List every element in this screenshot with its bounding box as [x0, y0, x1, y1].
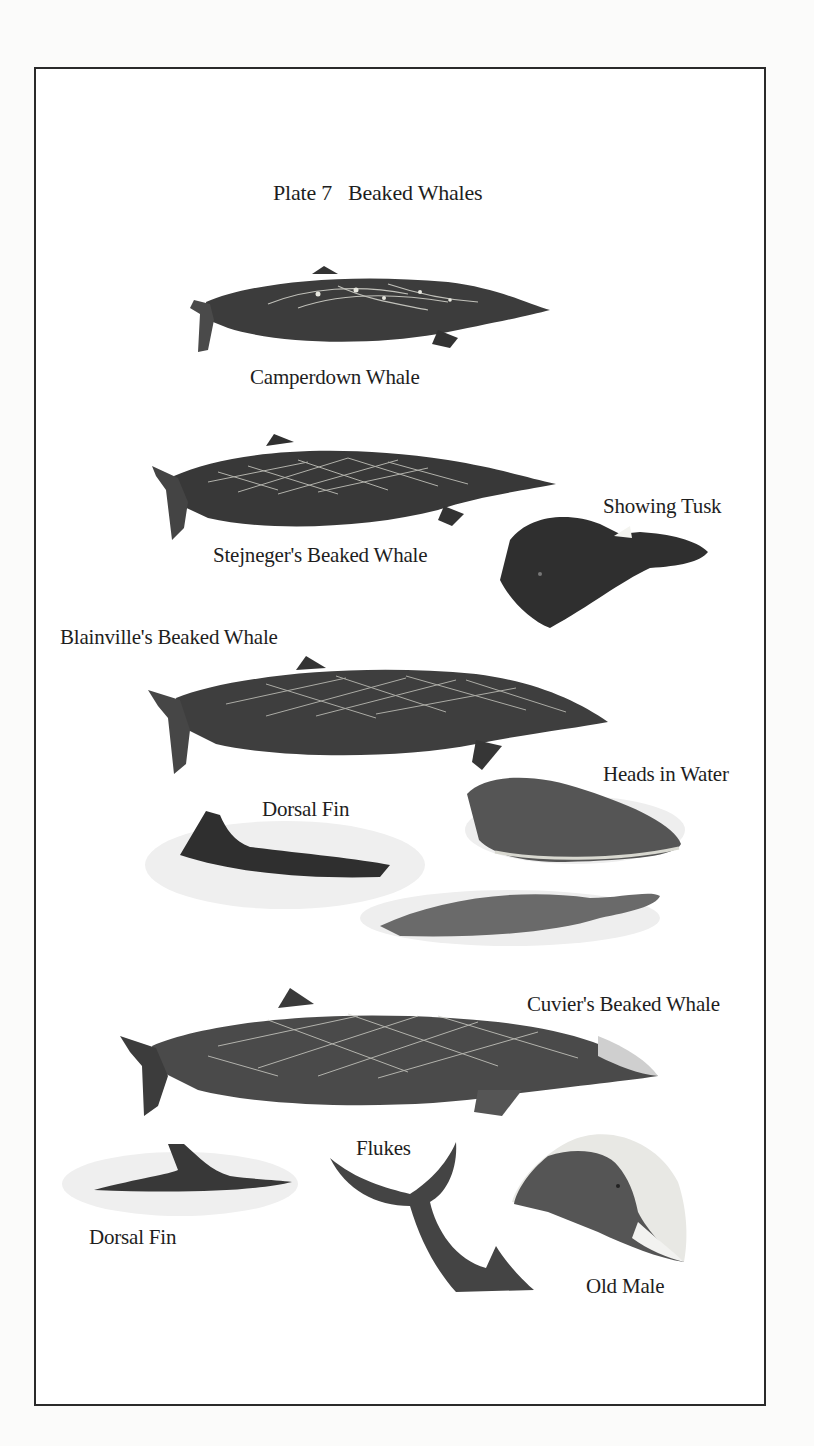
heads-in-water-illustration — [455, 770, 687, 870]
blainvilles-beaked-whale-label: Blainville's Beaked Whale — [60, 627, 278, 648]
old-male-label: Old Male — [586, 1276, 664, 1297]
dorsal-fin-2-illustration — [60, 1140, 300, 1220]
camperdown-whale-illustration — [188, 264, 554, 356]
dorsal-fin-1-illustration — [140, 805, 430, 915]
camperdown-whale-label: Camperdown Whale — [250, 367, 420, 388]
blainvilles-beaked-whale-illustration — [146, 654, 612, 776]
old-male-head-illustration — [508, 1122, 690, 1266]
flukes-illustration — [326, 1140, 536, 1296]
dorsal-fin-label-2: Dorsal Fin — [89, 1227, 176, 1248]
tusk-head-illustration — [490, 510, 712, 632]
cuviers-beaked-whale-illustration — [118, 986, 664, 1122]
stejnegers-beaked-whale-label: Stejneger's Beaked Whale — [213, 545, 427, 566]
plate-title: Plate 7 Beaked Whales — [273, 182, 482, 204]
